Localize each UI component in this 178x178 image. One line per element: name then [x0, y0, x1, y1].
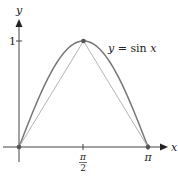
x-axis-label: x	[171, 141, 178, 154]
x-axis-arrow-icon	[160, 144, 168, 151]
series-chord-right	[84, 41, 149, 147]
annotation-x: x	[150, 42, 157, 55]
data-point-2	[146, 145, 151, 150]
data-point-0	[17, 145, 22, 150]
sine-chart: x y 1 π 2 π y = sin x	[0, 0, 178, 178]
annotation-eq: = sin	[114, 42, 150, 55]
curve-annotation: y = sin x	[107, 42, 157, 55]
y-axis-label: y	[15, 4, 23, 17]
x-tick-label-pi-half-den: 2	[80, 163, 86, 173]
series-y-sin-x	[19, 41, 148, 147]
y-axis-arrow-icon	[16, 19, 23, 27]
data-point-1	[81, 39, 86, 44]
x-tick-label-pi-half-num: π	[79, 152, 87, 162]
y-tick-label-1: 1	[9, 35, 16, 48]
x-tick-label-pi: π	[143, 151, 152, 164]
series-chord-left	[19, 41, 84, 147]
